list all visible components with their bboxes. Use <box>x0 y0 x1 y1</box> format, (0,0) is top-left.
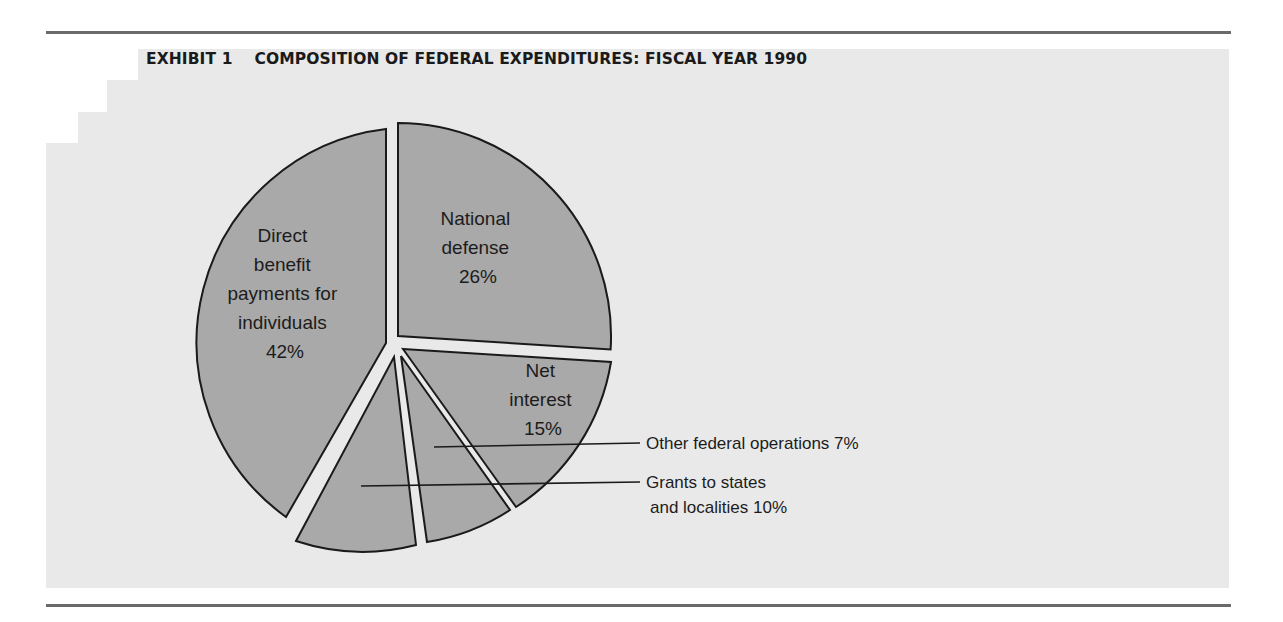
pie-chart: Direct benefit payments for individuals … <box>0 0 1283 622</box>
label-other-federal: Other federal operations 7% <box>646 434 859 453</box>
label-grants: Grants to states and localities 10% <box>646 473 787 517</box>
